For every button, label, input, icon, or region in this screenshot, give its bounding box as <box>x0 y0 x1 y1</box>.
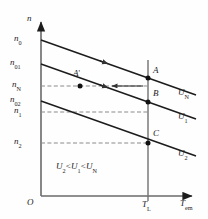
point-A <box>146 76 151 81</box>
curve-UN <box>41 40 196 95</box>
point-label-B: B <box>153 89 159 98</box>
curve-direction-markers <box>100 61 108 88</box>
point-Aprime <box>78 84 83 89</box>
point-B <box>146 100 151 105</box>
point-label-Aprime: A' <box>73 69 80 78</box>
y-tick-nN: nN <box>12 80 21 89</box>
x-tick-label-TL: TL <box>142 200 151 209</box>
curve-U2 <box>41 101 196 156</box>
point-label-C: C <box>153 129 159 138</box>
curve-label-U2: U2 <box>178 149 188 158</box>
dashed-projections <box>41 86 148 143</box>
curve-label-U1: U1 <box>178 112 188 121</box>
y-tick-n02: n02 <box>10 95 21 104</box>
origin-label: O <box>27 198 34 207</box>
y-tick-n01: n01 <box>10 58 21 67</box>
y-axis-label: n <box>27 14 32 23</box>
curve-U1 <box>41 64 196 119</box>
y-tick-n1: n1 <box>14 106 22 115</box>
x-axis-label: Tem <box>180 199 193 208</box>
speed-torque-diagram: n n0 n01 nN n02 n1 n2 UN U1 U2 A A' B C … <box>0 0 208 219</box>
diagram-canvas <box>0 0 208 219</box>
y-tick-n2: n2 <box>14 137 22 146</box>
curve-label-UN: UN <box>178 88 189 97</box>
inequality-annotation: U2<U1<UN <box>56 161 97 171</box>
point-label-A: A <box>153 66 159 75</box>
y-tick-n0: n0 <box>14 34 22 43</box>
point-C <box>146 141 151 146</box>
